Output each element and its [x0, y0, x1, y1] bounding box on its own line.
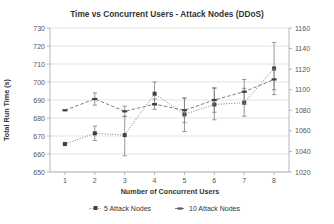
- data-point-marker: [212, 99, 217, 101]
- y-tick-label: 690: [33, 97, 45, 104]
- chart-canvas: Time vs Concurrent Users - Attack Nodes …: [0, 0, 334, 224]
- y-tick-label: 680: [33, 115, 45, 122]
- y-axis-title: Total Run Time (s): [2, 78, 11, 141]
- y-axis-left-ticks: 650660670680690700710720730: [33, 25, 50, 176]
- legend-marker: [94, 206, 98, 210]
- data-point-marker: [123, 133, 127, 137]
- y2-tick-label: 1080: [295, 107, 311, 114]
- legend-item-2[interactable]: 10 Attack Nodes: [175, 205, 240, 212]
- data-point-marker: [62, 109, 67, 111]
- y2-tick-label: 1040: [295, 148, 311, 155]
- x-tick-label: 3: [123, 177, 127, 184]
- data-point-marker: [242, 91, 247, 93]
- y-tick-label: 660: [33, 151, 45, 158]
- gridlines: [50, 28, 289, 172]
- y2-tick-label: 1060: [295, 127, 311, 134]
- data-point-marker: [122, 110, 127, 112]
- data-point-marker: [93, 131, 97, 135]
- data-point-marker: [272, 78, 277, 80]
- x-tick-label: 4: [153, 177, 157, 184]
- data-point-marker: [182, 109, 187, 111]
- y2-tick-label: 1140: [295, 45, 310, 52]
- x-axis-title: Number of Concurrent Users: [121, 187, 220, 196]
- legend-label: 10 Attack Nodes: [189, 205, 240, 212]
- x-tick-label: 2: [93, 177, 97, 184]
- y2-tick-label: 1100: [295, 86, 310, 93]
- chart-legend: 5 Attack Nodes10 Attack Nodes: [90, 205, 240, 212]
- y-tick-label: 700: [33, 79, 45, 86]
- y-axis-right-ticks: 10201040106010801100112011401160: [289, 25, 311, 176]
- y2-tick-label: 1160: [295, 25, 310, 32]
- data-point-marker: [152, 103, 157, 105]
- data-point-marker: [153, 92, 157, 96]
- y-tick-label: 710: [33, 61, 45, 68]
- data-point-marker: [92, 98, 97, 100]
- x-tick-label: 5: [182, 177, 186, 184]
- chart-title: Time vs Concurrent Users - Attack Nodes …: [70, 9, 264, 19]
- legend-marker: [178, 207, 183, 209]
- x-tick-label: 6: [212, 177, 216, 184]
- x-tick-label: 7: [242, 177, 246, 184]
- x-tick-label: 1: [63, 177, 67, 184]
- y-tick-label: 730: [33, 25, 45, 32]
- series-line: [65, 79, 274, 111]
- y2-tick-label: 1120: [295, 66, 310, 73]
- y-tick-label: 670: [33, 133, 45, 140]
- x-axis-ticks: 12345678: [63, 172, 276, 184]
- x-tick-label: 8: [272, 177, 276, 184]
- legend-item-1[interactable]: 5 Attack Nodes: [90, 205, 152, 212]
- data-point-marker: [63, 142, 67, 146]
- y-tick-label: 720: [33, 43, 45, 50]
- y-tick-label: 650: [33, 169, 45, 176]
- series-layer: [62, 42, 276, 155]
- y2-tick-label: 1020: [295, 169, 311, 176]
- legend-label: 5 Attack Nodes: [104, 205, 152, 212]
- chart-container: Time vs Concurrent Users - Attack Nodes …: [0, 0, 334, 224]
